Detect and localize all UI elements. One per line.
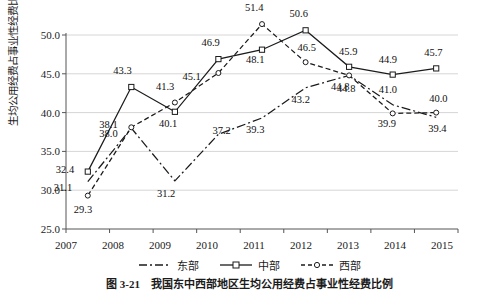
- data-label-东部-2009: 31.2: [157, 188, 175, 199]
- data-label-中部-2013: 45.9: [339, 46, 357, 57]
- data-point-marker: [303, 60, 308, 65]
- data-point-marker: [434, 66, 439, 71]
- data-point-marker: [129, 125, 134, 130]
- data-label-东部-2014: 41.0: [379, 84, 397, 95]
- data-label-西部-2009: 41.3: [156, 81, 174, 92]
- data-label-西部-2015: 40.0: [429, 93, 447, 104]
- legend-label-xibu: 西部: [339, 257, 361, 273]
- data-label-东部-2010: 37.2: [212, 125, 230, 136]
- data-label-西部-2014: 39.9: [378, 118, 396, 129]
- data-point-marker: [390, 72, 395, 77]
- data-label-东部-2015: 39.4: [428, 123, 446, 134]
- data-point-marker: [347, 73, 352, 78]
- data-label-中部-2007: 32.4: [56, 164, 74, 175]
- data-point-marker: [172, 109, 177, 114]
- data-point-marker: [259, 47, 264, 52]
- legend-label-dongbu: 东部: [177, 257, 199, 273]
- data-label-西部-2010: 45.1: [182, 71, 200, 82]
- data-point-marker: [390, 111, 395, 116]
- series-lines: [85, 22, 439, 199]
- legend-key-dashed-circle-icon: [300, 260, 334, 270]
- data-label-中部-2009: 40.1: [159, 118, 177, 129]
- data-label-中部-2015: 45.7: [424, 47, 442, 58]
- legend-item-zhongbu[interactable]: 中部: [219, 257, 280, 273]
- data-label-中部-2014: 44.9: [379, 54, 397, 65]
- data-point-marker: [216, 57, 221, 62]
- data-label-中部-2008: 43.3: [113, 65, 131, 76]
- legend-key-dash-dot-icon: [138, 260, 172, 270]
- data-point-marker: [85, 193, 90, 198]
- data-label-东部-2011: 39.3: [246, 124, 264, 135]
- chart-legend: 东部 中部 西部: [0, 257, 499, 273]
- data-point-marker: [303, 28, 308, 33]
- data-point-marker: [347, 64, 352, 69]
- data-label-西部-2007: 29.3: [74, 204, 92, 215]
- data-label-中部-2011: 48.1: [246, 54, 264, 65]
- data-label-西部-2012: 46.5: [298, 42, 316, 53]
- data-label-东部-2012: 43.2: [292, 94, 310, 105]
- data-point-marker: [85, 169, 90, 174]
- data-point-marker: [434, 110, 439, 115]
- data-point-marker: [172, 100, 177, 105]
- data-label-西部-2008: 38.1: [99, 119, 117, 130]
- legend-item-dongbu[interactable]: 东部: [138, 257, 199, 273]
- legend-label-zhongbu: 中部: [258, 257, 280, 273]
- data-label-西部-2011: 51.4: [245, 2, 263, 13]
- data-label-西部-2013: 44.8: [337, 83, 355, 94]
- data-label-中部-2010: 46.9: [201, 37, 219, 48]
- legend-key-solid-square-icon: [219, 260, 253, 270]
- data-point-marker: [260, 22, 265, 27]
- data-label-中部-2012: 50.6: [290, 8, 308, 19]
- data-point-marker: [129, 84, 134, 89]
- legend-item-xibu[interactable]: 西部: [300, 257, 361, 273]
- data-point-marker: [216, 71, 221, 76]
- figure-caption: 图 3-21 我国东中西部地区生均公用经费占事业性经费比例: [0, 275, 499, 291]
- data-label-东部-2007: 31.1: [54, 182, 72, 193]
